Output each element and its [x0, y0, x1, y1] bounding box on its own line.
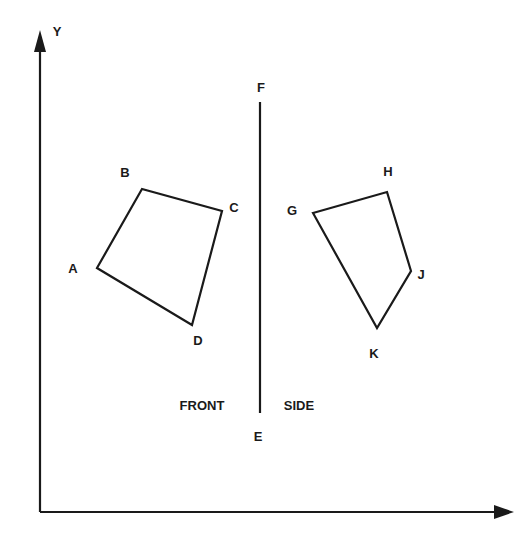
vertex-label-k: K — [369, 346, 378, 361]
vertex-label-j: J — [417, 267, 424, 282]
side-view-title: SIDE — [284, 398, 314, 413]
front-view-polygon — [97, 189, 222, 325]
vertex-label-c: C — [229, 200, 238, 215]
x-axis-arrow-icon — [494, 505, 514, 519]
divider-bottom-label-e: E — [254, 429, 263, 444]
vertex-label-h: H — [383, 164, 392, 179]
vertex-label-d: D — [193, 333, 202, 348]
divider-top-label-f: F — [257, 80, 265, 95]
y-axis-label: Y — [53, 24, 62, 39]
y-axis-arrow-icon — [34, 30, 46, 52]
front-view-title: FRONT — [180, 398, 225, 413]
side-view-polygon — [313, 192, 411, 328]
vertex-label-g: G — [287, 203, 297, 218]
vertex-label-a: A — [68, 261, 77, 276]
vertex-label-b: B — [120, 165, 129, 180]
